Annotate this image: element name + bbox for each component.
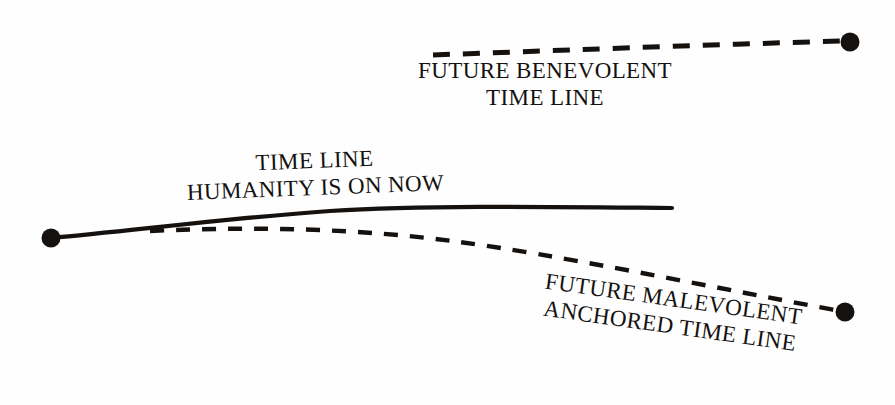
benevolent-label-line-1: FUTURE BENEVOLENT (400, 58, 690, 85)
origin-node-dot (42, 229, 61, 248)
benevolent-endpoint-dot (841, 33, 860, 52)
benevolent-label-line-2: TIME LINE (400, 85, 690, 112)
timeline-diagram: FUTURE BENEVOLENT TIME LINE TIME LINE HU… (0, 0, 895, 405)
benevolent-timeline-label: FUTURE BENEVOLENT TIME LINE (400, 58, 690, 111)
benevolent-timeline-path (433, 41, 843, 55)
